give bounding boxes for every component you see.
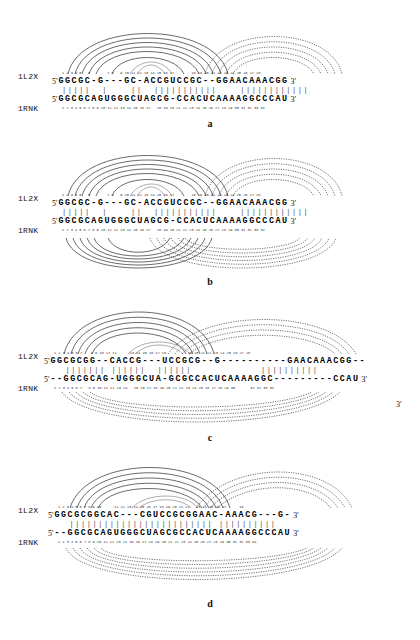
panel-b-sequences: 1 2 3 4 5 6 7 8 9 10 11 12 13 14 15 16 1…	[52, 192, 309, 233]
panel-a-bottom-sequence: GGCGCAGUGGGCUAGCG-CCACUCAAAAGGCCCAU	[58, 94, 288, 105]
panel-c-label-1l2x: 1L2X	[18, 352, 38, 361]
panel-a-bottom-row: 5' GGCGCAGUGGGCUAGCG-CCACUCAAAAGGCCCAU 3…	[52, 94, 309, 105]
panel-c: 1L2X 1RNK 1 2 3 4 5 6 7 8 9 10 11 12 13 …	[0, 296, 420, 446]
panel-b-arcs-below	[0, 238, 420, 280]
panel-a-bottom-three-prime: 3'	[291, 95, 296, 104]
panel-b-bottom-three-prime: 3'	[291, 217, 296, 226]
panel-a-bottom-five-prime: 5'	[52, 95, 57, 104]
panel-c-match-bars: ||||||| |||||| |||||| ||||||||||	[54, 367, 367, 374]
panel-b-top-three-prime: 3'	[291, 199, 296, 208]
panel-d-match-bars: ||||||||||||||||||||||||| ||||||||||	[58, 521, 299, 528]
panel-d-bottom-numbers: 1 2 3 4 5 6 7 8 9 10 11 12 13 14 15 16 1…	[58, 539, 299, 545]
panel-b: 1L2X 1RNK 1 2 3 4 5 6 7 8 9 10 11 12 13 …	[0, 140, 420, 290]
panel-a-label-1l2x: 1L2X	[18, 72, 38, 81]
panel-b-top-five-prime: 5'	[52, 199, 57, 208]
panel-a: 1L2X 1RNK 1 2 3 4 5 6 7 8 9 10 11 12 13 …	[0, 18, 420, 138]
panel-a-top-five-prime: 5'	[52, 77, 57, 86]
panel-c-letter: c	[0, 432, 420, 443]
panel-d-sequences: 1 2 3 4 5 6 7 8 9 10 11 12 13 14 15 16 1…	[48, 504, 299, 545]
panel-a-match-bars: ||||| | || ||||||||||| ||||||||||||	[62, 87, 309, 94]
panel-d-bottom-three-prime: 3'	[293, 529, 298, 538]
panel-c-bottom-row: 5' --GGCGCAG-UGGGCUA-GCGCCACUCAAAAGGC---…	[44, 374, 367, 385]
panel-c-bottom-sequence: --GGCGCAG-UGGGCUA-GCGCCACUCAAAAGGC------…	[50, 374, 359, 385]
rna-alignment-figure: 1L2X 1RNK 1 2 3 4 5 6 7 8 9 10 11 12 13 …	[0, 0, 420, 640]
panel-d-bottom-row: 5' --GGCGCAGUGGGCUAGCGCCACUCAAAAGGCCCAU …	[48, 528, 299, 539]
panel-b-bottom-sequence: GGCGCAGUGGGCUAGCG-CCACUCAAAAGGCCCAU	[58, 216, 288, 227]
panel-c-arcs-above	[0, 296, 420, 354]
panel-a-sequences: 1 2 3 4 5 6 7 8 9 10 11 12 13 14 15 16 1…	[52, 70, 309, 111]
panel-a-label-1rnk: 1RNK	[18, 104, 38, 113]
panel-c-sequences: 1 2 3 4 5 6 7 8 9 10 11 12 13 14 15 16 1…	[44, 350, 367, 391]
panel-d-top-three-prime: 3'	[293, 511, 298, 520]
panel-c-bottom-five-prime: 5'	[44, 375, 49, 384]
panel-d-label-1l2x: 1L2X	[18, 506, 38, 515]
panel-d-top-five-prime: 5'	[48, 511, 53, 520]
panel-d-letter: d	[0, 598, 420, 609]
panel-b-label-1rnk: 1RNK	[18, 226, 38, 235]
panel-b-arcs-above	[0, 140, 420, 196]
panel-d-bottom-sequence: --GGCGCAGUGGGCUAGCGCCACUCAAAAGGCCCAU	[54, 528, 291, 539]
panel-c-arcs-below	[0, 392, 420, 434]
panel-d-arcs-above	[0, 452, 420, 508]
panel-a-arcs-above	[0, 18, 420, 74]
panel-a-letter: a	[0, 118, 420, 129]
panel-b-bottom-five-prime: 5'	[52, 217, 57, 226]
panel-b-bottom-row: 5' GGCGCAGUGGGCUAGCG-CCACUCAAAAGGCCCAU 3…	[52, 216, 309, 227]
panel-d-bottom-five-prime: 5'	[48, 529, 53, 538]
panel-d-label-1rnk: 1RNK	[18, 538, 38, 547]
panel-c-bottom-numbers: 1 2 3 4 5 6 7 8 9 10 11 12 13 14 15 16 1…	[54, 385, 367, 391]
panel-a-top-three-prime: 3'	[291, 77, 296, 86]
panel-b-letter: b	[0, 276, 420, 287]
panel-b-match-bars: ||||| | || ||||||||||| ||||||||||||	[62, 209, 309, 216]
panel-b-bottom-numbers: 1 2 3 4 5 6 7 8 9 10 11 12 13 14 15 16 1…	[62, 227, 309, 233]
panel-c-top-five-prime: 5'	[44, 357, 49, 366]
panel-d: 1L2X 1RNK 1 2 3 4 5 6 7 8 9 10 11 12 13 …	[0, 452, 420, 632]
panel-b-label-1l2x: 1L2X	[18, 194, 38, 203]
panel-d-arcs-below	[0, 548, 420, 592]
panel-a-bottom-numbers: 1 2 3 4 5 6 7 8 9 10 11 12 13 14 15 16 1…	[62, 105, 309, 111]
panel-c-bottom-three-prime: 3'	[362, 375, 367, 384]
